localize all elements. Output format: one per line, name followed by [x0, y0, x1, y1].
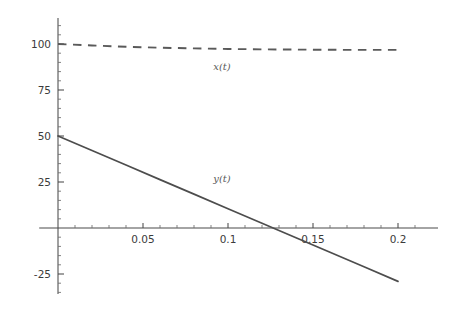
y-tick-label: 100 [31, 38, 51, 50]
x-tick-label: 0.05 [131, 233, 154, 245]
x-axis-tick-labels: 0.050.10.150.2 [131, 233, 406, 245]
x-axis-minor-ticks [75, 225, 415, 228]
x-tick-label: 0.1 [220, 233, 237, 245]
axes-group [39, 18, 438, 294]
y-tick-label: 75 [38, 84, 51, 96]
y-axis-tick-labels: 100755025-25 [31, 38, 51, 280]
x-tick-label: 0.2 [390, 233, 407, 245]
y-tick-label: -25 [34, 268, 51, 280]
plot-figure: 0.050.10.150.2 100755025-25 x(t)y(t) [0, 0, 457, 317]
plot-canvas: 0.050.10.150.2 100755025-25 x(t)y(t) [0, 0, 457, 317]
y-tick-label: 25 [38, 176, 51, 188]
series-curve-yt [58, 136, 398, 281]
series-label-xt: x(t) [213, 61, 231, 72]
series-curves [58, 44, 398, 281]
series-label-yt: y(t) [212, 173, 231, 184]
y-tick-label: 50 [38, 130, 51, 142]
series-curve-xt [58, 44, 398, 50]
series-annotations: x(t)y(t) [212, 61, 231, 184]
y-axis-major-ticks [58, 44, 64, 274]
x-tick-label: 0.15 [301, 233, 324, 245]
